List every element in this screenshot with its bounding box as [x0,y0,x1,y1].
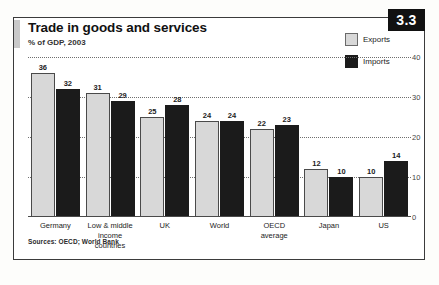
bar-value-label: 25 [148,107,156,116]
chart-subtitle: % of GDP, 2003 [28,37,207,48]
bar-group: 2528 [137,57,192,217]
x-axis-labels: GermanyLow & middleincome countriesUKWor… [28,221,411,251]
legend-swatch-exports-icon [345,33,358,46]
bar-value-label: 24 [203,111,211,120]
bar-imports: 29 [111,101,135,217]
bar-exports: 25 [140,117,164,217]
bar-value-label: 28 [173,95,181,104]
page-title: Trade in goods and services [28,20,207,36]
x-axis-label: Japan [302,221,357,251]
bar-value-label: 12 [312,159,320,168]
x-axis-label-line: Low & middle [84,221,137,231]
bar-group: 2223 [247,57,302,217]
figure-frame: Trade in goods and services % of GDP, 20… [13,17,425,260]
y-axis: 010203040 [412,57,436,217]
plot-area: 3632312925282424222312101014 [28,57,411,217]
bar-value-label: 22 [258,119,266,128]
x-axis-label: UK [137,221,192,251]
bar-exports: 24 [195,121,219,217]
x-axis-label-line: US [357,221,410,231]
bar-value-label: 14 [392,151,400,160]
x-axis-label-line: Japan [303,221,356,231]
x-axis-label-line: OECD [248,221,301,231]
bar-value-label: 36 [39,63,47,72]
x-axis-label: Germany [28,221,83,251]
bar-value-label: 10 [337,167,345,176]
x-axis-label: World [192,221,247,251]
chapter-badge: 3.3 [388,9,425,31]
y-axis-tick-label: 10 [412,173,420,182]
y-axis-tick-label: 20 [412,133,420,142]
legend-item-exports: Exports [345,30,415,48]
x-axis-label-line: Germany [29,221,82,231]
bar-group: 2424 [192,57,247,217]
bar-value-label: 29 [118,91,126,100]
x-axis-label: US [356,221,411,251]
bar-imports: 10 [329,177,353,217]
legend-label-exports: Exports [363,35,390,44]
bar-imports: 32 [56,89,80,217]
x-axis-label-line: World [193,221,246,231]
bar-exports: 22 [250,129,274,217]
title-accent-bar [14,20,20,48]
x-axis-label: OECDaverage [247,221,302,251]
bars-layer: 3632312925282424222312101014 [28,57,411,217]
bar-group: 1014 [356,57,411,217]
bar-exports: 36 [31,73,55,217]
x-axis-label-line: UK [138,221,191,231]
bar-group: 3632 [28,57,83,217]
y-axis-tick-label: 30 [412,93,420,102]
bar-exports: 31 [86,93,110,217]
bar-imports: 28 [165,105,189,217]
title-block: Trade in goods and services % of GDP, 20… [28,20,207,48]
bar-value-label: 10 [367,167,375,176]
bar-group: 1210 [302,57,357,217]
bar-value-label: 23 [283,115,291,124]
x-axis-label: Low & middleincome countries [83,221,138,251]
y-axis-tick-label: 0 [412,213,416,222]
bar-value-label: 31 [93,83,101,92]
x-axis-label-line: average [248,231,301,241]
bar-group: 3129 [83,57,138,217]
bar-imports: 24 [220,121,244,217]
bar-imports: 23 [275,125,299,217]
axis-baseline [28,216,411,217]
source-note: Sources: OECD; World Bank [28,238,119,245]
bar-exports: 12 [304,169,328,217]
y-axis-tick-label: 40 [412,53,420,62]
bar-imports: 14 [384,161,408,217]
bar-exports: 10 [359,177,383,217]
bar-value-label: 24 [228,111,236,120]
figure-page: Trade in goods and services % of GDP, 20… [0,0,439,285]
bar-value-label: 32 [64,79,72,88]
